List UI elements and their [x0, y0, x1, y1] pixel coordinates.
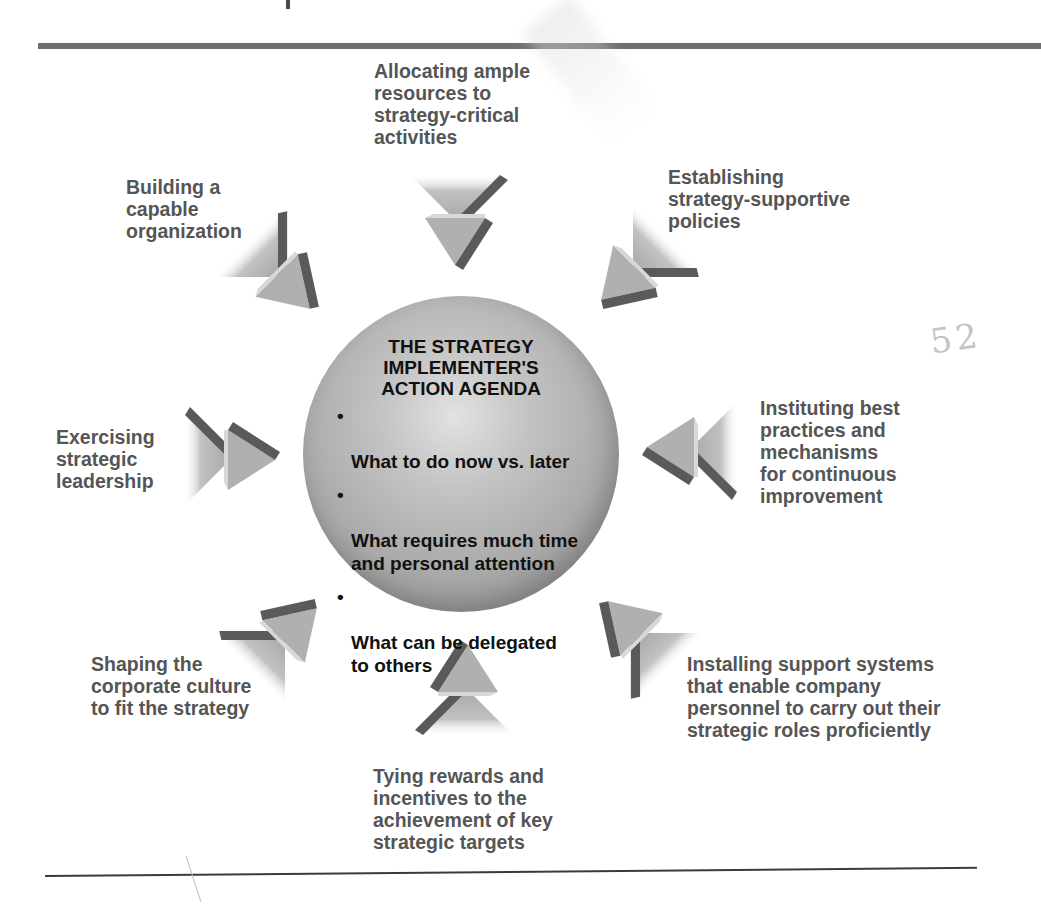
bullet-icon: •: [337, 404, 344, 427]
center-bullet-item: • What can be delegated to others: [337, 585, 607, 677]
arrow-left-icon: [632, 397, 742, 507]
scan-smudge: [523, 0, 656, 144]
label-installing-support-systems: Installing support systems that enable c…: [687, 653, 941, 741]
label-allocating-resources: Allocating ample resources to strategy-c…: [374, 60, 530, 148]
bullet-icon: •: [337, 585, 344, 608]
center-bullet-text: What requires much time and personal att…: [351, 530, 578, 574]
center-bullet-item: • What requires much time and personal a…: [337, 483, 607, 575]
center-bullet-item: • What to do now vs. later: [337, 404, 607, 473]
label-tying-rewards: Tying rewards and incentives to the achi…: [373, 765, 553, 853]
label-shaping-culture: Shaping the corporate culture to fit the…: [91, 653, 251, 719]
center-title: THE STRATEGY IMPLEMENTER'S ACTION AGENDA: [303, 336, 619, 399]
arrow-down-icon: [405, 170, 515, 280]
scan-scratch: [186, 856, 202, 902]
center-bullet-text: What to do now vs. later: [351, 451, 570, 472]
center-sphere: THE STRATEGY IMPLEMENTER'S ACTION AGENDA…: [303, 296, 619, 612]
header-fragment: [286, 0, 290, 9]
center-bullet-list: • What to do now vs. later • What requir…: [337, 404, 607, 687]
arrow-right-icon: [180, 400, 290, 510]
bullet-icon: •: [337, 483, 344, 506]
label-exercising-leadership: Exercising strategic leadership: [56, 426, 155, 492]
center-bullet-text: What can be delegated to others: [351, 632, 557, 676]
label-building-organization: Building a capable organization: [126, 176, 242, 242]
handwritten-annotation: 52: [927, 315, 983, 362]
label-establishing-policies: Establishing strategy-supportive policie…: [668, 166, 850, 232]
label-instituting-best-practices: Instituting best practices and mechanism…: [760, 397, 900, 507]
bottom-rule: [45, 867, 977, 877]
